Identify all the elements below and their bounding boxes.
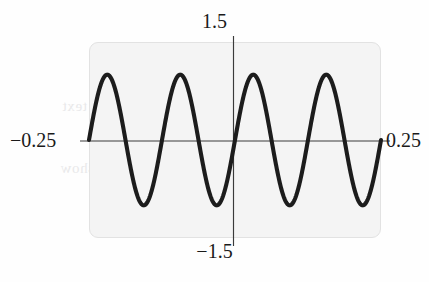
x-max-label: 0.25 xyxy=(386,129,421,152)
y-min-label: −1.5 xyxy=(0,240,429,263)
plot-graphics xyxy=(80,36,390,246)
figure-page: bleed-through text reverse page show fai… xyxy=(0,0,429,282)
y-max-label: 1.5 xyxy=(0,10,429,33)
x-min-label: −0.25 xyxy=(10,129,56,152)
sine-curve xyxy=(89,75,381,206)
